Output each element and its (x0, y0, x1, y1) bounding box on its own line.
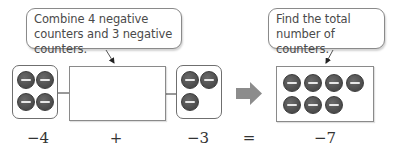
negative-counter-icon (283, 74, 301, 92)
callout-combine-pointer-icon (106, 50, 114, 63)
negative-counter-icon (181, 93, 199, 111)
negative-counter-icon (36, 71, 54, 89)
negative-counter-icon (304, 74, 322, 92)
right-arrow-icon (236, 82, 262, 105)
negative-counter-icon (200, 71, 218, 89)
negative-counter-icon (325, 74, 343, 92)
negative-counter-icon (304, 96, 322, 114)
label-negative-four: −4 (27, 129, 49, 147)
label-negative-seven: −7 (314, 129, 336, 147)
negative-counter-icon (36, 93, 54, 111)
label-plus: + (110, 129, 123, 147)
negative-counter-icon (17, 93, 35, 111)
negative-counter-icon (17, 71, 35, 89)
group-negative-four (12, 65, 58, 119)
negative-counter-icon (325, 96, 343, 114)
callout-total-pointer-icon (326, 50, 333, 63)
negative-counter-icon (181, 71, 199, 89)
empty-mat (69, 66, 166, 121)
group-negative-three (176, 65, 222, 119)
negative-counter-icon (346, 74, 364, 92)
label-equals: = (243, 129, 256, 147)
label-negative-three: −3 (187, 129, 209, 147)
result-mat (276, 66, 374, 122)
negative-counter-icon (283, 96, 301, 114)
